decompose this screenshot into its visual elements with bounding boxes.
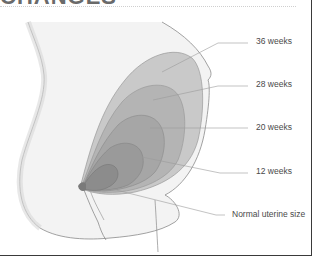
label-12-weeks: 12 weeks [256, 166, 292, 176]
label-normal-uterine-size: Normal uterine size [232, 209, 305, 219]
label-36-weeks: 36 weeks [256, 36, 292, 46]
label-20-weeks: 20 weeks [256, 122, 292, 132]
frame-border-bottom [0, 255, 312, 256]
label-28-weeks: 28 weeks [256, 79, 292, 89]
frame-border-right [311, 0, 312, 256]
